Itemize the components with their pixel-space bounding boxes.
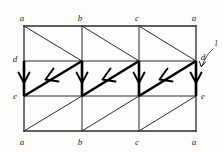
bottom-diagonal-2 bbox=[82, 96, 139, 131]
bottom-vertex-labels: a b c a bbox=[20, 137, 197, 147]
diagonal-arrowhead-3 bbox=[160, 69, 173, 82]
vertex-label-bottom-a-left: a bbox=[20, 137, 25, 147]
vertex-label-left-e: e bbox=[13, 91, 17, 101]
top-vertex-labels: a b c a bbox=[20, 13, 197, 23]
bold-diagonal-edges bbox=[24, 61, 196, 96]
vertex-label-top-b: b bbox=[78, 13, 83, 23]
left-vertex-labels: d e bbox=[13, 54, 18, 101]
annotation-label-1: 1 bbox=[214, 39, 218, 48]
top-diagonal-3 bbox=[139, 26, 196, 61]
vertex-label-bottom-c: c bbox=[135, 137, 139, 147]
diagonal-arrowhead-2 bbox=[103, 69, 116, 82]
bottom-diagonal-1 bbox=[24, 96, 82, 131]
vertex-label-top-c: c bbox=[135, 13, 139, 23]
vertex-label-right-d: d bbox=[201, 52, 206, 62]
top-diagonal-1 bbox=[24, 26, 82, 61]
top-diagonal-2 bbox=[82, 26, 139, 61]
vertex-label-right-e: e bbox=[201, 91, 205, 101]
vertex-label-left-d: d bbox=[13, 54, 18, 64]
bottom-band-diagonals bbox=[24, 96, 196, 131]
vertex-label-top-a-left: a bbox=[20, 13, 25, 23]
bold-diagonal-1 bbox=[24, 61, 82, 96]
vertex-label-top-a-right: a bbox=[192, 13, 197, 23]
diagram-canvas: a b c a a b c a d e d e 1 bbox=[0, 0, 223, 152]
bottom-diagonal-3 bbox=[139, 96, 196, 131]
bold-diagonal-2 bbox=[82, 61, 139, 96]
bold-diagonal-3 bbox=[139, 61, 196, 96]
vertex-label-bottom-b: b bbox=[78, 137, 83, 147]
vertex-label-bottom-a-right: a bbox=[192, 137, 197, 147]
top-band-diagonals bbox=[24, 26, 196, 61]
figure-root: a b c a a b c a d e d e 1 bbox=[0, 0, 223, 152]
